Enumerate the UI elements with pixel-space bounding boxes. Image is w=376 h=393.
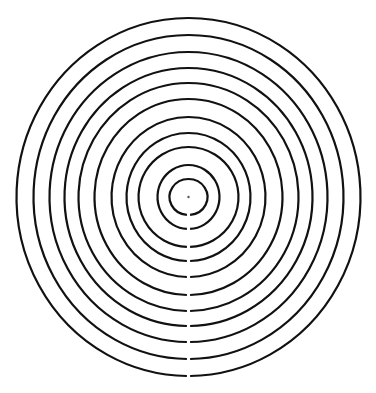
maze-diagram — [0, 0, 376, 393]
center-dot — [187, 196, 189, 198]
concentric-rings — [0, 0, 376, 393]
